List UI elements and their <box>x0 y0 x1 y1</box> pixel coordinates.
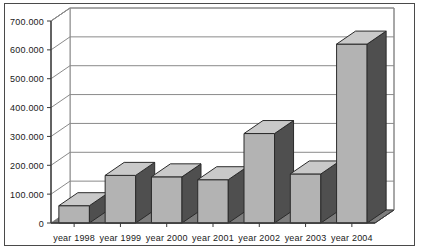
chart-frame: 0100.000200.000300.000400.000500.000600.… <box>4 3 415 246</box>
x-axis-category-label: year 1999 <box>100 233 142 243</box>
y-axis-tick-label: 300.000 <box>10 132 44 142</box>
bar-front-face <box>337 44 368 223</box>
bar-front-face <box>198 180 229 223</box>
bar-chart: 0100.000200.000300.000400.000500.000600.… <box>5 4 414 245</box>
bar-front-face <box>244 134 275 223</box>
y-axis-tick-label: 100.000 <box>10 190 44 200</box>
x-axis-category-label: year 1998 <box>53 233 95 243</box>
bar-side-face <box>367 31 386 223</box>
y-axis-tick-label: 200.000 <box>10 161 44 171</box>
y-axis-tick-label: 500.000 <box>10 74 44 84</box>
y-axis-tick-label: 0 <box>39 219 44 229</box>
bar-front-face <box>151 177 182 223</box>
x-axis-category-label: year 2001 <box>192 233 234 243</box>
bar-front-face <box>59 206 90 223</box>
x-axis-category-label: year 2004 <box>331 233 373 243</box>
bar-front-face <box>105 175 136 223</box>
y-axis-tick-label: 600.000 <box>10 45 44 55</box>
x-axis-category-label: year 2000 <box>146 233 188 243</box>
y-axis-tick-label: 700.000 <box>10 17 44 27</box>
plot-left-wall <box>51 8 70 223</box>
x-axis-category-label: year 2003 <box>285 233 327 243</box>
y-axis-tick-label: 400.000 <box>10 103 44 113</box>
bar-front-face <box>290 174 321 223</box>
x-axis-category-label: year 2002 <box>238 233 280 243</box>
